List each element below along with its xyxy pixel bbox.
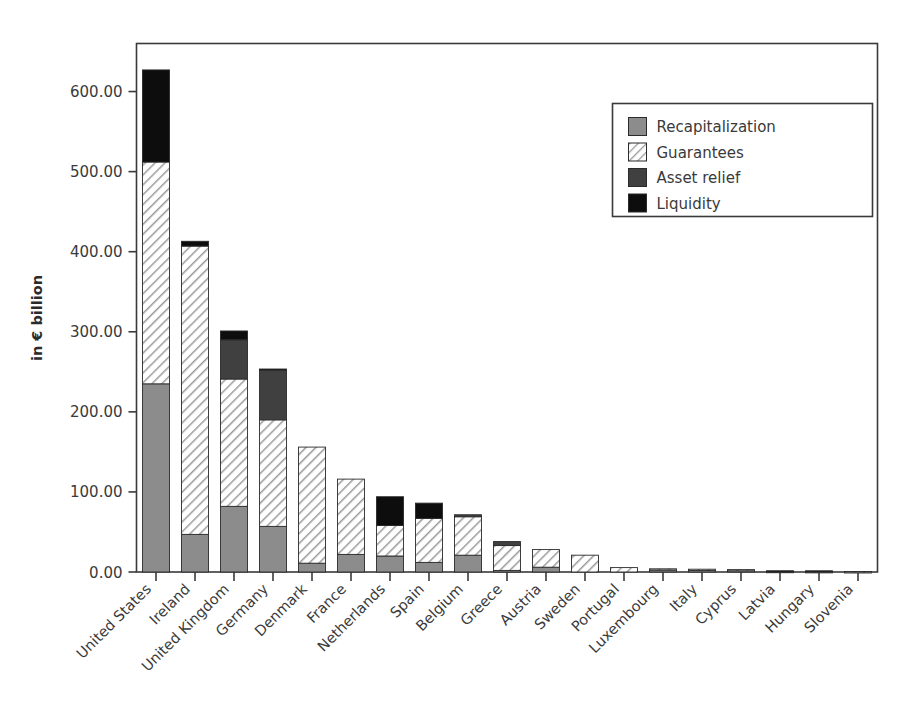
bar-stack [143, 70, 170, 572]
legend-label-recapitalization: Recapitalization [657, 118, 776, 136]
y-axis-tick-label: 0.00 [89, 564, 122, 582]
bar-segment-recapitalization [416, 562, 443, 572]
bar-segment-liquidity [377, 497, 404, 526]
bar-segment-asset-relief [260, 370, 287, 420]
bar-stack [182, 241, 209, 572]
legend-swatch-recapitalization [629, 118, 647, 136]
bar-stack [845, 572, 872, 573]
bar-stack [416, 503, 443, 572]
bar-stack [767, 571, 794, 573]
bar-segment-guarantees [416, 518, 443, 562]
bar-segment-guarantees [377, 526, 404, 556]
legend-label-asset-relief: Asset relief [657, 169, 741, 187]
bar-segment-guarantees [299, 447, 326, 563]
chart-legend: RecapitalizationGuaranteesAsset reliefLi… [613, 104, 873, 217]
bar-stack [728, 570, 755, 572]
legend-label-guarantees: Guarantees [657, 144, 745, 162]
bar-segment-guarantees [494, 546, 521, 571]
legend-swatch-liquidity [629, 194, 647, 212]
bar-segment-liquidity [260, 369, 287, 370]
bar-segment-recapitalization [182, 534, 209, 572]
bar-stack [455, 515, 482, 572]
legend-swatch-guarantees [629, 143, 647, 161]
chart-container: 0.00100.00200.00300.00400.00500.00600.00… [0, 0, 919, 722]
bar-segment-recapitalization [260, 526, 287, 572]
bar-segment-guarantees [221, 379, 248, 506]
bar-segment-guarantees [650, 569, 677, 570]
bar-stack [689, 569, 716, 572]
y-axis-tick-label: 100.00 [70, 483, 123, 501]
bar-segment-guarantees [728, 570, 755, 571]
bar-segment-liquidity [221, 331, 248, 340]
bar-segment-guarantees [611, 568, 638, 572]
bar-segment-liquidity [767, 571, 794, 572]
bar-segment-liquidity [416, 503, 443, 518]
stacked-bar-chart: 0.00100.00200.00300.00400.00500.00600.00… [0, 0, 919, 722]
bar-segment-asset-relief [221, 340, 248, 379]
bar-stack [260, 369, 287, 572]
bar-segment-liquidity [143, 70, 170, 162]
bar-segment-guarantees [533, 550, 560, 568]
bar-stack [533, 550, 560, 572]
bar-segment-asset-relief [494, 542, 521, 546]
bar-segment-guarantees [689, 569, 716, 570]
bar-stack [611, 568, 638, 572]
y-axis-tick-label: 500.00 [70, 163, 123, 181]
bar-stack [572, 555, 599, 572]
bar-segment-recapitalization [143, 384, 170, 572]
y-axis-tick-label: 200.00 [70, 403, 123, 421]
bar-stack [377, 497, 404, 572]
bar-segment-liquidity [806, 571, 833, 572]
bar-segment-liquidity [182, 241, 209, 246]
legend-label-liquidity: Liquidity [657, 195, 721, 213]
bar-segment-guarantees [338, 479, 365, 554]
bar-segment-guarantees [572, 555, 599, 572]
y-axis-tick-label: 600.00 [70, 83, 123, 101]
bar-segment-asset-relief [455, 515, 482, 517]
bar-stack [650, 569, 677, 572]
legend-swatch-asset-relief [629, 169, 647, 187]
bar-segment-guarantees [260, 420, 287, 527]
bar-stack [221, 331, 248, 572]
bar-segment-recapitalization [338, 554, 365, 572]
bar-segment-recapitalization [221, 506, 248, 572]
bar-segment-guarantees [845, 572, 872, 573]
bar-stack [299, 447, 326, 572]
bar-segment-guarantees [455, 517, 482, 555]
bar-stack [338, 479, 365, 572]
bar-segment-recapitalization [533, 567, 560, 572]
bar-stack [806, 571, 833, 573]
bar-stack [494, 542, 521, 572]
y-axis-title: in € billion [29, 275, 45, 361]
bar-segment-guarantees [182, 246, 209, 534]
bar-segment-guarantees [143, 162, 170, 384]
bar-segment-recapitalization [299, 563, 326, 572]
bar-segment-recapitalization [455, 555, 482, 572]
y-axis-tick-label: 400.00 [70, 243, 123, 261]
y-axis-tick-label: 300.00 [70, 323, 123, 341]
bar-segment-recapitalization [377, 556, 404, 572]
